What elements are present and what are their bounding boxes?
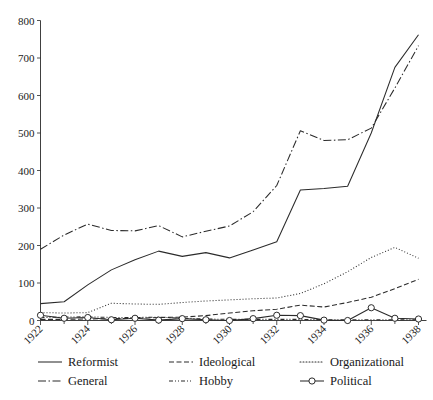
- legend-label-ideological: Ideological: [199, 355, 256, 369]
- series-marker-political: [156, 317, 162, 323]
- series-line-general: [41, 46, 419, 250]
- series-marker-political: [274, 312, 280, 318]
- chart-legend: ReformistIdeologicalOrganizationalGenera…: [38, 355, 405, 388]
- series-marker-political: [108, 317, 114, 323]
- legend-marker-political: [309, 378, 315, 384]
- legend-item-political[interactable]: Political: [300, 374, 372, 388]
- y-axis: 0100200300400500600700800: [18, 15, 41, 327]
- x-axis-tick-label: 1926: [115, 322, 139, 346]
- series-marker-political: [132, 315, 138, 321]
- series-marker-political: [203, 317, 209, 323]
- legend-label-general: General: [68, 374, 108, 388]
- y-axis-tick-label: 300: [18, 202, 35, 214]
- legend-item-general[interactable]: General: [38, 374, 108, 388]
- series-marker-political: [179, 316, 185, 322]
- series-marker-political: [345, 317, 351, 323]
- legend-item-hobby[interactable]: Hobby: [169, 374, 234, 388]
- series-marker-political: [85, 314, 91, 320]
- series-marker-political: [392, 315, 398, 321]
- legend-label-hobby: Hobby: [199, 374, 234, 388]
- legend-item-organizational[interactable]: Organizational: [300, 355, 405, 369]
- series-marker-political: [37, 312, 43, 318]
- legend-label-organizational: Organizational: [330, 355, 405, 369]
- y-axis-tick-label: 500: [18, 127, 35, 139]
- x-axis-tick-label: 1924: [68, 322, 92, 346]
- y-axis-tick-label: 800: [18, 15, 35, 27]
- line-chart-canvas: 0100200300400500600700800 19221924192619…: [0, 0, 433, 400]
- legend-item-reformist[interactable]: Reformist: [38, 355, 119, 369]
- series-marker-political: [368, 305, 374, 311]
- x-axis-tick-label: 1936: [352, 322, 376, 346]
- y-axis-tick-label: 100: [18, 277, 35, 289]
- series-layer: [41, 35, 419, 321]
- chart-figure: 0100200300400500600700800 19221924192619…: [0, 0, 433, 400]
- x-axis-tick-label: 1932: [257, 322, 281, 346]
- series-line-organizational: [41, 247, 419, 313]
- series-marker-political: [61, 315, 67, 321]
- x-axis-tick-label: 1922: [21, 322, 45, 346]
- y-axis-tick-label: 700: [18, 52, 35, 64]
- series-marker-political: [415, 316, 421, 322]
- legend-label-political: Political: [330, 374, 372, 388]
- x-axis-tick-label: 1928: [163, 322, 187, 346]
- x-axis-tick-label: 1934: [304, 322, 328, 346]
- legend-item-ideological[interactable]: Ideological: [169, 355, 256, 369]
- series-marker-political: [250, 316, 256, 322]
- y-axis-tick-label: 200: [18, 240, 35, 252]
- series-marker-political: [321, 317, 327, 323]
- series-marker-political: [297, 313, 303, 319]
- x-axis: 192219241926192819301932193419361938: [21, 321, 427, 347]
- series-marker-political: [226, 317, 232, 323]
- legend-label-reformist: Reformist: [68, 355, 119, 369]
- y-axis-tick-label: 400: [18, 165, 35, 177]
- x-axis-tick-label: 1930: [210, 322, 234, 346]
- x-axis-tick-label: 1938: [399, 322, 423, 346]
- y-axis-tick-label: 600: [18, 90, 35, 102]
